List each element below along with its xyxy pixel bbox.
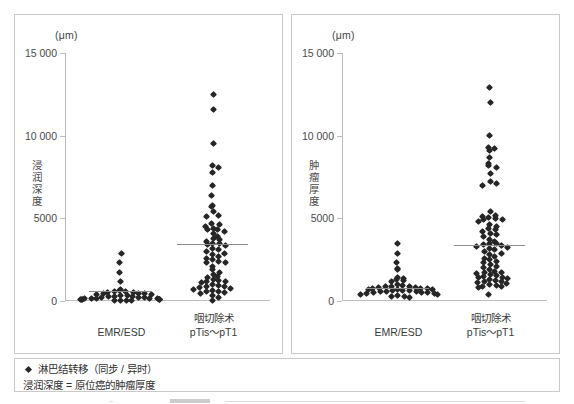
legend-label: 淋巴结转移（同步 / 异时） bbox=[38, 363, 157, 377]
data-point bbox=[116, 269, 123, 276]
data-point bbox=[117, 250, 124, 257]
chart-panel-invasion-depth: (μm) 浸润深度 0500010 00015 000 EMR/ESD 咽切除术… bbox=[14, 14, 283, 354]
data-point bbox=[486, 281, 493, 288]
legend-row: 淋巴结转移（同步 / 异时） bbox=[23, 363, 551, 377]
data-point bbox=[493, 180, 500, 187]
data-point bbox=[210, 91, 217, 98]
data-point bbox=[487, 170, 494, 177]
data-point bbox=[202, 213, 209, 220]
data-point bbox=[479, 182, 486, 189]
group-mean-line bbox=[454, 245, 525, 246]
y-axis-line bbox=[342, 53, 343, 301]
x-category-label-pharyngectomy: 咽切除术 pTis～pT1 bbox=[436, 311, 546, 339]
y-axis-tick-label: 0 bbox=[51, 295, 57, 307]
data-point bbox=[215, 164, 222, 171]
data-point bbox=[486, 132, 493, 139]
y-axis-tick bbox=[60, 136, 65, 137]
y-axis-tick bbox=[60, 301, 65, 302]
data-point bbox=[394, 292, 401, 299]
y-axis-tick bbox=[337, 53, 342, 54]
y-axis-tick-label: 10 000 bbox=[302, 130, 334, 142]
y-axis-tick bbox=[337, 218, 342, 219]
data-point bbox=[434, 291, 441, 298]
y-axis-title: 肿瘤厚度 bbox=[306, 160, 321, 208]
data-point bbox=[394, 240, 401, 247]
diamond-marker-icon bbox=[25, 366, 32, 373]
data-point bbox=[487, 99, 494, 106]
data-point bbox=[222, 259, 229, 266]
data-point bbox=[117, 278, 124, 285]
data-point bbox=[485, 291, 492, 298]
figure-root: (μm) 浸润深度 0500010 00015 000 EMR/ESD 咽切除术… bbox=[0, 0, 574, 404]
group-mean-line bbox=[177, 244, 248, 245]
y-axis-tick-label: 15 000 bbox=[25, 47, 57, 59]
data-point bbox=[499, 216, 506, 223]
data-point bbox=[475, 284, 482, 291]
data-point bbox=[370, 289, 377, 296]
data-point bbox=[156, 296, 163, 303]
y-axis-tick bbox=[60, 218, 65, 219]
page-bottom-sliver bbox=[0, 399, 574, 404]
y-axis-tick bbox=[337, 136, 342, 137]
y-axis-tick-label: 5000 bbox=[311, 212, 334, 224]
data-point bbox=[485, 84, 492, 91]
chart-panel-tumor-thickness: (μm) 肿瘤厚度 0500010 00015 000 EMR/ESD 咽切除术… bbox=[291, 14, 560, 354]
legend-footer: 淋巴结转移（同步 / 异时） 浸润深度 = 原位癌的肿瘤厚度 bbox=[14, 358, 560, 392]
data-point bbox=[116, 259, 123, 266]
y-axis-tick-label: 15 000 bbox=[302, 47, 334, 59]
data-point bbox=[227, 285, 234, 292]
y-axis-tick bbox=[337, 301, 342, 302]
y-axis-unit-label: (μm) bbox=[55, 29, 78, 41]
chart-panels: (μm) 浸润深度 0500010 00015 000 EMR/ESD 咽切除术… bbox=[14, 14, 560, 354]
data-point bbox=[393, 250, 400, 257]
group-mean-line bbox=[89, 291, 153, 292]
data-point bbox=[210, 140, 217, 147]
y-axis-tick-label: 10 000 bbox=[25, 130, 57, 142]
data-point bbox=[221, 228, 228, 235]
data-point bbox=[209, 182, 216, 189]
footnote-text: 浸润深度 = 原位癌的肿瘤厚度 bbox=[23, 378, 551, 393]
data-point bbox=[209, 168, 216, 175]
data-point bbox=[376, 288, 383, 295]
y-axis-title: 浸润深度 bbox=[29, 160, 44, 208]
y-axis-line bbox=[65, 53, 66, 301]
data-point bbox=[221, 250, 228, 257]
data-point bbox=[208, 192, 215, 199]
data-point bbox=[493, 164, 500, 171]
y-axis-tick-label: 0 bbox=[328, 295, 334, 307]
data-point bbox=[209, 106, 216, 113]
data-point bbox=[221, 289, 228, 296]
x-axis-line bbox=[342, 300, 547, 301]
data-point bbox=[498, 283, 505, 290]
y-axis-unit-label: (μm) bbox=[332, 29, 355, 41]
plot-area: 0500010 00015 000 bbox=[65, 53, 270, 301]
y-axis-tick-label: 5000 bbox=[34, 212, 57, 224]
plot-area: 0500010 00015 000 bbox=[342, 53, 547, 301]
group-mean-line bbox=[366, 288, 430, 289]
data-point bbox=[498, 250, 505, 257]
y-axis-tick bbox=[60, 53, 65, 54]
x-category-label-pharyngectomy: 咽切除术 pTis～pT1 bbox=[159, 311, 269, 339]
